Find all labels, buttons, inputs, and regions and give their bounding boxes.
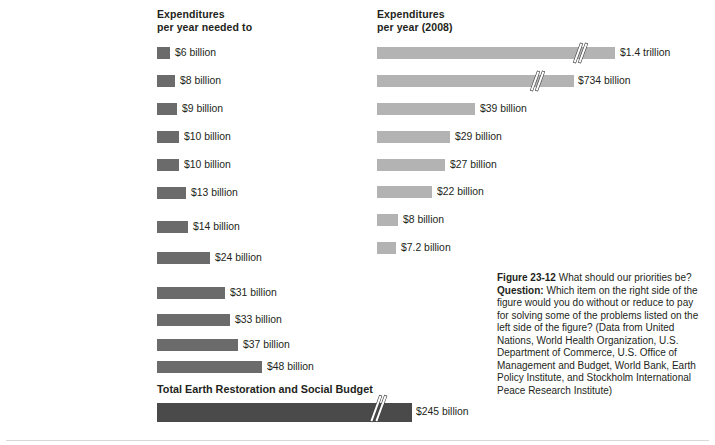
bar-track [157, 252, 210, 264]
bar-fill [157, 187, 186, 199]
caption-lead: What should our priorities be? [559, 272, 692, 283]
bar-fill [157, 75, 175, 87]
bar-value: $6 billion [175, 47, 216, 59]
bar-fill [377, 103, 475, 115]
bar-value: $734 billion [578, 75, 631, 87]
bar-value: $39 billion [480, 103, 527, 115]
right-panel-header: Expenditures per year (2008) [377, 8, 453, 33]
bar-value: $29 billion [455, 131, 502, 143]
bar-fill [377, 214, 398, 226]
bar-fill [377, 75, 574, 87]
caption-question-label: Question: [497, 285, 544, 296]
bar-value: $9 billion [182, 103, 223, 115]
bar-track [377, 47, 615, 59]
bar-track [377, 75, 574, 87]
caption-figure-number: Figure 23-12 [497, 272, 556, 283]
bar-fill [157, 252, 210, 264]
bar-fill [157, 314, 230, 326]
figure-23-12: Expenditures per year needed to Reforest… [0, 0, 715, 445]
total-budget-bar [157, 403, 412, 422]
bar-track [377, 131, 450, 143]
bar-value: $13 billion [191, 187, 238, 199]
bar-track [157, 339, 238, 351]
bar-fill [157, 339, 238, 351]
bar-fill [157, 47, 170, 59]
bar-fill [157, 221, 188, 233]
bar-track [157, 221, 188, 233]
bar-value: $10 billion [184, 131, 231, 143]
total-budget-value: $245 billion [416, 406, 469, 417]
bar-track [157, 131, 179, 143]
bar-track [377, 242, 396, 254]
bar-value: $33 billion [235, 314, 282, 326]
bottom-divider [6, 440, 709, 441]
bar-value: $27 billion [450, 159, 497, 171]
figure-caption: Figure 23-12 What should our priorities … [497, 272, 699, 397]
bar-value: $31 billion [230, 287, 277, 299]
bar-track [157, 47, 170, 59]
bar-fill [157, 131, 179, 143]
bar-track [157, 187, 186, 199]
bar-fill [157, 103, 177, 115]
bar-fill [377, 242, 396, 254]
bar-track [157, 361, 262, 373]
bar-value: $8 billion [403, 214, 444, 226]
total-budget-title: Total Earth Restoration and Social Budge… [157, 383, 373, 395]
bar-track [377, 186, 432, 198]
bar-fill [377, 47, 615, 59]
bar-value: $22 billion [437, 186, 484, 198]
bar-value: $1.4 trillion [620, 47, 670, 59]
bar-track [157, 314, 230, 326]
bar-value: $24 billion [215, 252, 262, 264]
bar-fill [377, 131, 450, 143]
bar-value: $10 billion [184, 159, 231, 171]
bar-value: $14 billion [193, 221, 240, 233]
axis-break-icon [373, 399, 387, 424]
bar-track [157, 75, 175, 87]
bar-fill [157, 159, 179, 171]
bar-value: $8 billion [180, 75, 221, 87]
bar-value: $7.2 billion [401, 242, 451, 254]
bar-track [157, 103, 177, 115]
bar-track [377, 103, 475, 115]
bar-value: $37 billion [243, 339, 290, 351]
bar-fill [377, 159, 445, 171]
bar-value: $48 billion [267, 361, 314, 373]
caption-source: (Data from United Nations, World Health … [497, 322, 696, 396]
bar-track [157, 287, 225, 299]
bar-fill [377, 186, 432, 198]
bar-fill [157, 287, 225, 299]
left-panel-header: Expenditures per year needed to [157, 8, 252, 33]
bar-track [377, 159, 445, 171]
bar-fill [157, 361, 262, 373]
bar-track [157, 159, 179, 171]
bar-track [377, 214, 398, 226]
